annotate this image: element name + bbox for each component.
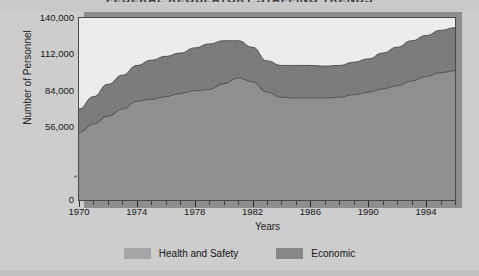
- x-axis-minor-tick: [238, 201, 239, 205]
- y-axis-tick-label: 112,000: [14, 49, 74, 59]
- plot-area: [78, 17, 456, 201]
- x-axis-tick-label: 1970: [68, 206, 89, 217]
- x-axis-minor-tick: [354, 201, 355, 205]
- x-axis-minor-tick: [455, 201, 456, 205]
- x-axis-minor-tick: [296, 201, 297, 205]
- x-axis-title: Years: [78, 221, 457, 232]
- x-axis-tick-label: 1982: [242, 206, 263, 217]
- x-axis-minor-tick: [180, 201, 181, 205]
- legend-label: Health and Safety: [159, 248, 239, 259]
- y-axis-tick-label: 56,000: [14, 122, 74, 132]
- x-axis-minor-tick: [108, 201, 109, 205]
- x-axis-minor-tick: [325, 201, 326, 205]
- legend-item[interactable]: Economic: [276, 248, 355, 259]
- chart-legend: Health and SafetyEconomic: [0, 248, 479, 259]
- x-axis-minor-tick: [93, 201, 94, 205]
- axis-note-asterisk: *: [74, 174, 77, 182]
- page-title: FEDERAL REGULATORY STAFFING TRENDS: [0, 0, 479, 2]
- legend-swatch: [124, 248, 151, 259]
- x-axis-minor-tick: [224, 201, 225, 205]
- legend-swatch: [276, 248, 303, 259]
- x-axis-minor-tick: [441, 201, 442, 205]
- x-axis-minor-tick: [383, 201, 384, 205]
- legend-item[interactable]: Health and Safety: [124, 248, 239, 259]
- x-axis-minor-tick: [151, 201, 152, 205]
- x-axis-tick-label: 1986: [300, 206, 321, 217]
- x-axis-tick-label: 1978: [184, 206, 205, 217]
- x-axis-minor-tick: [122, 201, 123, 205]
- x-axis-minor-tick: [281, 201, 282, 205]
- y-axis-tick-label: 0: [14, 195, 74, 205]
- x-axis-minor-tick: [412, 201, 413, 205]
- x-axis-minor-tick: [267, 201, 268, 205]
- x-axis-minor-tick: [209, 201, 210, 205]
- x-axis-minor-tick: [166, 201, 167, 205]
- y-axis-tick-label: 84,000: [14, 86, 74, 96]
- x-axis-tick-label: 1990: [358, 206, 379, 217]
- area-chart-svg: [79, 18, 455, 200]
- legend-label: Economic: [311, 248, 355, 259]
- x-axis-minor-tick: [339, 201, 340, 205]
- x-axis-minor-tick: [397, 201, 398, 205]
- x-axis-tick-label: 1994: [415, 206, 436, 217]
- scan-artifact-bottom: [0, 270, 479, 276]
- x-axis-tick-label: 1974: [126, 206, 147, 217]
- y-axis-tick-label: 140,000: [14, 13, 74, 23]
